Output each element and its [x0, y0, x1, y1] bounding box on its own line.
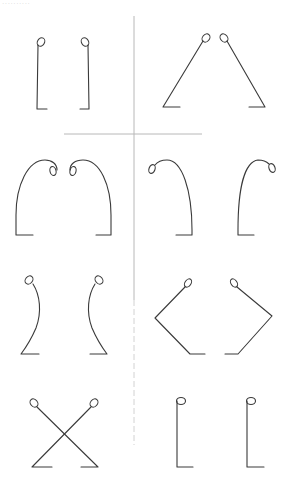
panel-4-outward-arches [148, 160, 277, 235]
panel-1-vertical-pair [36, 36, 91, 109]
panel-5-s-curve-pair [21, 274, 107, 354]
panel-2-inverted-v-pair [163, 32, 265, 107]
panel-8-l-pair [177, 398, 265, 468]
panel-6-bent-angle-pair [155, 278, 272, 354]
figure-grid [0, 0, 292, 488]
diagram-canvas: ·········· [0, 0, 292, 488]
panel-3-facing-arches [16, 160, 111, 235]
panel-7-crossed-pair [28, 397, 99, 467]
